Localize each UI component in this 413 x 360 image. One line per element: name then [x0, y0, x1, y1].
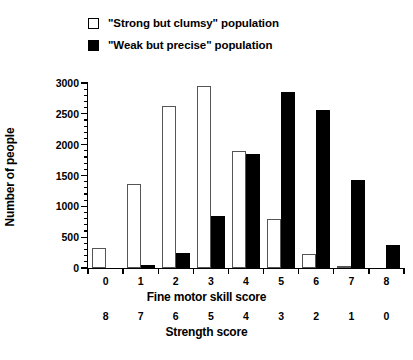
bar	[211, 216, 225, 268]
bar	[162, 106, 176, 268]
bar	[92, 248, 106, 268]
y-axis-tick-label: 2000	[56, 139, 79, 151]
y-axis-tick-label: 0	[73, 262, 79, 274]
x-axis-tick-label: 8	[103, 310, 109, 322]
x-axis-tick-labels-fine: 012345678	[88, 275, 404, 289]
x-axis-tick	[368, 268, 369, 274]
x-axis-tick-label: 4	[243, 310, 249, 322]
y-axis-tick-label: 3000	[56, 77, 79, 89]
y-axis-title-text: Number of people	[3, 127, 17, 226]
bar	[267, 219, 281, 268]
bar-group	[158, 83, 193, 268]
y-axis-major-tick	[81, 237, 88, 238]
legend-item-label: "Strong but clumsy" population	[108, 17, 279, 29]
x-axis-title-fine: Fine motor skill score	[0, 290, 413, 304]
x-axis-tick	[193, 268, 194, 274]
x-axis-tick	[298, 268, 299, 274]
bar	[232, 151, 246, 268]
bar	[351, 180, 365, 268]
bar-group	[299, 83, 334, 268]
y-axis-tick-label: 500	[61, 231, 79, 243]
x-axis-tick	[333, 268, 334, 274]
bar-group	[334, 83, 369, 268]
bar	[141, 265, 155, 268]
bar	[197, 86, 211, 268]
bar	[281, 92, 295, 268]
x-axis-tick	[228, 268, 229, 274]
x-axis-tick-label: 7	[138, 310, 144, 322]
x-axis-tick-label: 6	[313, 275, 319, 287]
x-axis-tick	[263, 268, 264, 274]
x-axis-tick-label: 6	[173, 310, 179, 322]
x-axis-tick-label: 5	[278, 275, 284, 287]
x-axis-tick-label: 7	[348, 275, 354, 287]
bar-group	[369, 83, 404, 268]
bar	[246, 154, 260, 268]
x-axis-tick-label: 1	[348, 310, 354, 322]
y-axis-major-tick	[81, 206, 88, 207]
bar-group	[123, 83, 158, 268]
bar	[337, 266, 351, 268]
x-axis-tick-label: 3	[278, 310, 284, 322]
bar	[316, 110, 330, 268]
chart-legend: "Strong but clumsy" population "Weak but…	[88, 12, 408, 56]
x-axis-tick-labels-strength: 876543210	[88, 310, 404, 324]
x-axis-tick	[122, 268, 123, 274]
filled-square-swatch-icon	[88, 40, 99, 51]
legend-item: "Weak but precise" population	[88, 34, 408, 56]
y-axis-major-tick	[81, 175, 88, 176]
x-axis-tick-label: 1	[138, 275, 144, 287]
plot-area: 050010001500200025003000	[88, 83, 404, 268]
bar	[302, 254, 316, 268]
y-axis-major-tick	[81, 82, 88, 83]
bar	[386, 245, 400, 268]
x-axis-tick-label: 4	[243, 275, 249, 287]
x-axis-title-strength: Strength score	[0, 325, 413, 339]
x-axis-tick-label: 0	[384, 310, 390, 322]
x-axis-tick-label: 2	[173, 275, 179, 287]
bar-group	[264, 83, 299, 268]
x-axis-tick-label: 8	[384, 275, 390, 287]
x-axis-tick-label: 3	[208, 275, 214, 287]
y-axis-title: Number of people	[0, 84, 20, 269]
bar-group	[228, 83, 263, 268]
legend-item: "Strong but clumsy" population	[88, 12, 408, 34]
y-axis-tick-label: 1500	[56, 170, 79, 182]
y-axis-tick-label: 2500	[56, 108, 79, 120]
legend-item-label: "Weak but precise" population	[108, 39, 272, 51]
x-axis-tick-label: 0	[103, 275, 109, 287]
y-axis-tick-label: 1000	[56, 200, 79, 212]
x-axis-tick-label: 5	[208, 310, 214, 322]
y-axis-major-tick	[81, 144, 88, 145]
bar	[127, 184, 141, 268]
bar	[176, 253, 190, 268]
bar-group	[88, 83, 123, 268]
bar-group	[193, 83, 228, 268]
x-axis-tick-label: 2	[313, 310, 319, 322]
x-axis-tick	[403, 268, 404, 274]
x-axis-tick	[158, 268, 159, 274]
x-axis-tick	[87, 268, 88, 274]
y-axis-major-tick	[81, 113, 88, 114]
hollow-square-swatch-icon	[88, 18, 99, 29]
